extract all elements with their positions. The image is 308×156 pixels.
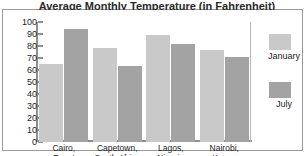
- bar-january-capetown: [93, 48, 117, 142]
- bar-january-cairo: [39, 64, 63, 142]
- y-axis-tick-label: 90: [27, 29, 37, 39]
- plot-area: [37, 22, 251, 142]
- legend-label: July: [261, 99, 307, 110]
- x-axis-labels: Cairo,EgyptCapetown,South AfricaLagos,Ni…: [37, 143, 251, 156]
- chart-frame: Average Monthly Temperature (in Fahrenhe…: [2, 9, 303, 151]
- bar-july-cairo: [64, 29, 88, 142]
- y-axis-tick-label: 70: [27, 53, 37, 63]
- bar-july-lagos: [171, 44, 195, 142]
- chart-screenshot: Average Monthly Temperature (in Fahrenhe…: [0, 0, 308, 156]
- x-axis-label: Nairobi,Kenya: [190, 143, 260, 156]
- bar-group: [198, 22, 252, 142]
- y-axis-tick-label: 40: [27, 89, 37, 99]
- y-axis-tick-label: 10: [27, 125, 37, 135]
- bar-july-nairobi: [225, 57, 249, 142]
- bar-group: [91, 22, 145, 142]
- x-axis-label-line: Nairobi,: [190, 143, 260, 153]
- y-axis-tick-label: 100: [22, 17, 37, 27]
- y-axis-tick-label: 50: [27, 77, 37, 87]
- bar-january-lagos: [146, 35, 170, 142]
- bar-group: [144, 22, 198, 142]
- x-axis-label-line: Kenya: [190, 153, 260, 156]
- bar-group: [37, 22, 91, 142]
- y-axis-tick-label: 30: [27, 101, 37, 111]
- bar-july-capetown: [118, 66, 142, 142]
- y-axis-tick-label: 80: [27, 41, 37, 51]
- chart-title: Average Monthly Temperature (in Fahrenhe…: [3, 1, 308, 10]
- legend-swatch: [269, 34, 291, 50]
- legend-label: January: [261, 51, 307, 62]
- y-axis-tick-label: 20: [27, 113, 37, 123]
- y-axis-tick-label: 60: [27, 65, 37, 75]
- legend-swatch: [269, 82, 291, 98]
- bar-january-nairobi: [200, 50, 224, 142]
